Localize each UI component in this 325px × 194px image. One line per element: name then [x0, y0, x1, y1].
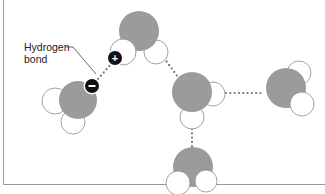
label-leader-line [66, 47, 96, 74]
hydrogen-bond-diagram: + [0, 0, 325, 194]
hydrogen-atom [166, 171, 190, 194]
water-molecule-right [266, 61, 314, 116]
positive-charge-symbol: + [112, 52, 118, 64]
water-molecule-center [172, 72, 225, 129]
label-line-2: bond [24, 53, 70, 65]
negative-charge-symbol [89, 85, 96, 87]
hydrogen-atom [195, 170, 217, 192]
negative-charge-badge [84, 78, 101, 95]
oxygen-atom [172, 72, 212, 112]
label-line-1: Hydrogen [24, 41, 70, 53]
water-molecule-bottom [166, 147, 217, 194]
hydrogen-atom [290, 92, 314, 116]
hydrogen-bond-label: Hydrogen bond [24, 41, 70, 65]
positive-charge-badge: + [107, 50, 124, 67]
hydrogen-bond-top-center [164, 58, 178, 77]
hydrogen-bond-left-top [98, 63, 112, 79]
